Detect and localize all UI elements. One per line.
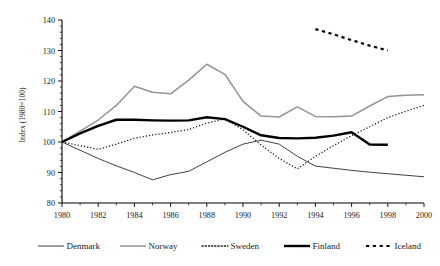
y-tick-label: 110 xyxy=(43,108,55,117)
y-tick-label: 100 xyxy=(43,138,55,147)
y-tick-label: 140 xyxy=(43,16,55,25)
x-tick-label: 1980 xyxy=(54,211,70,220)
x-tick-label: 1982 xyxy=(90,211,106,220)
x-tick-label: 2000 xyxy=(416,211,432,220)
x-tick-label: 1986 xyxy=(162,211,178,220)
chart-container: 8090100110120130140 19801982198419861988… xyxy=(0,0,440,266)
legend-label-sweden: Sweden xyxy=(231,241,260,251)
x-tick-label: 1998 xyxy=(380,211,396,220)
legend-label-iceland: Iceland xyxy=(395,241,422,251)
x-tick-label: 1992 xyxy=(271,211,287,220)
x-tick-label: 1996 xyxy=(343,211,359,220)
x-tick-label: 1990 xyxy=(235,211,251,220)
legend-label-denmark: Denmark xyxy=(67,241,101,251)
y-tick-label: 120 xyxy=(43,77,55,86)
y-axis-title: Index (1980=100) xyxy=(18,87,27,143)
line-chart: 8090100110120130140 19801982198419861988… xyxy=(0,0,440,266)
legend-label-finland: Finland xyxy=(313,241,341,251)
plot-background xyxy=(0,0,440,266)
y-tick-label: 80 xyxy=(47,199,55,208)
x-tick-label: 1994 xyxy=(307,211,323,220)
legend-label-norway: Norway xyxy=(149,241,178,251)
y-axis-title-text: Index (1980=100) xyxy=(18,87,27,143)
y-tick-label: 90 xyxy=(47,169,55,178)
y-tick-label: 130 xyxy=(43,47,55,56)
x-tick-label: 1988 xyxy=(199,211,215,220)
x-tick-label: 1984 xyxy=(126,211,142,220)
